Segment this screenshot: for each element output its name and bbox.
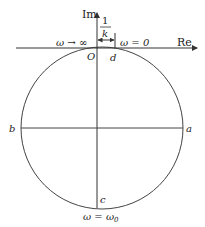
omega-omega0-label: ω = ω0 [83,211,119,224]
x-axis-label: Re [177,36,192,49]
omega-infinity-label: ω → ∞ [56,37,87,48]
origin-label: O [87,51,95,62]
point-c-label: c [100,194,106,205]
gap-denominator: k [102,28,108,39]
y-axis-label: Im [82,8,97,21]
point-b-label: b [9,123,15,134]
omega-zero-label: ω = 0 [120,37,150,48]
point-d-label: d [110,52,116,63]
point-a-label: a [186,123,192,134]
gap-numerator: 1 [102,15,108,26]
nyquist-circle-diagram: Im Re 1 k ω → ∞ ω = 0 O d b a c ω = ω0 [0,0,205,227]
